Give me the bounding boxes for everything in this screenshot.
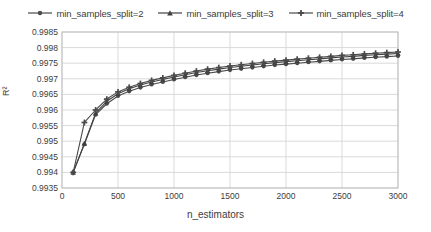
y-axis-tick-label: 0.9955 [18, 121, 58, 131]
line-chart-plot [0, 0, 431, 232]
x-axis-tick-label: 2000 [277, 191, 296, 201]
y-axis-tick-label: 0.9935 [18, 183, 58, 193]
x-axis-tick-label: 500 [111, 191, 125, 201]
y-axis-tick-label: 0.9985 [18, 27, 58, 37]
x-axis-tick-label: 3000 [389, 191, 408, 201]
y-axis-tick-label: 0.997 [18, 74, 58, 84]
chart-container: min_samples_split=2min_samples_split=3mi… [0, 0, 431, 232]
y-axis-title: R² [1, 87, 11, 97]
y-axis-tick-label: 0.9965 [18, 89, 58, 99]
x-axis-title: n_estimators [0, 209, 431, 220]
y-axis-tick-label: 0.9975 [18, 58, 58, 68]
y-axis-tick-label: 0.998 [18, 43, 58, 53]
y-axis-tick-label: 0.995 [18, 136, 58, 146]
x-axis-tick-label: 0 [60, 191, 65, 201]
x-axis-tick-label: 1000 [165, 191, 184, 201]
y-axis-tick-label: 0.994 [18, 167, 58, 177]
y-axis-tick-label: 0.9945 [18, 152, 58, 162]
y-axis-tick-label: 0.996 [18, 105, 58, 115]
x-axis-tick-label: 2500 [333, 191, 352, 201]
x-axis-tick-label: 1500 [221, 191, 240, 201]
plot-area-wrapper: 0.99850.9980.99750.9970.99650.9960.99550… [0, 0, 431, 232]
y-axis-tick-labels: 0.99850.9980.99750.9970.99650.9960.99550… [16, 0, 58, 232]
